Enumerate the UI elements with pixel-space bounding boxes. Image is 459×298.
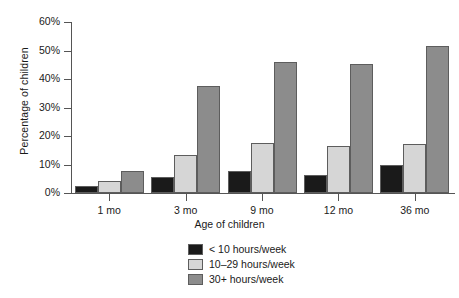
y-tick-mark — [64, 108, 71, 109]
x-tick-label: 12 mo — [303, 204, 373, 216]
bar — [304, 175, 327, 193]
y-tick-mark — [64, 51, 71, 52]
x-tick-label: 1 mo — [74, 204, 144, 216]
y-tick-mark — [64, 22, 71, 23]
legend-label: 30+ hours/week — [209, 273, 283, 285]
bar — [426, 46, 449, 193]
x-tick-mark — [338, 194, 339, 201]
bar — [380, 165, 403, 194]
x-tick-mark — [262, 194, 263, 201]
bar — [403, 144, 426, 193]
y-tick-label: 0% — [14, 186, 60, 198]
legend-item: 30+ hours/week — [188, 272, 295, 286]
bar — [197, 86, 220, 193]
x-tick-label: 9 mo — [227, 204, 297, 216]
legend-item: < 10 hours/week — [188, 242, 295, 256]
legend-item: 10–29 hours/week — [188, 257, 295, 271]
x-tick-mark — [186, 194, 187, 201]
bar — [98, 181, 121, 193]
bar — [121, 171, 144, 193]
y-tick-mark — [64, 79, 71, 80]
bar — [350, 64, 373, 193]
bar — [327, 146, 350, 193]
bar — [151, 177, 174, 193]
bar — [228, 171, 251, 193]
y-tick-label: 20% — [14, 129, 60, 141]
bar — [274, 62, 297, 193]
legend-swatch — [188, 274, 203, 285]
y-tick-mark — [64, 136, 71, 137]
bar — [251, 143, 274, 193]
bar — [75, 186, 98, 193]
bar — [174, 155, 197, 193]
legend-label: 10–29 hours/week — [209, 258, 295, 270]
y-tick-label: 60% — [14, 15, 60, 27]
y-tick-label: 50% — [14, 44, 60, 56]
y-tick-mark — [64, 193, 71, 194]
legend-swatch — [188, 244, 203, 255]
y-tick-label: 40% — [14, 72, 60, 84]
x-tick-label: 36 mo — [380, 204, 450, 216]
x-tick-mark — [415, 194, 416, 201]
x-axis-title: Age of children — [0, 218, 459, 230]
y-tick-label: 30% — [14, 101, 60, 113]
x-tick-mark — [109, 194, 110, 201]
y-tick-mark — [64, 165, 71, 166]
chart-legend: < 10 hours/week10–29 hours/week30+ hours… — [188, 242, 295, 287]
legend-label: < 10 hours/week — [209, 243, 286, 255]
bar-chart: Percentage of children 0%10%20%30%40%50%… — [0, 0, 459, 298]
x-axis-line — [71, 193, 455, 194]
legend-swatch — [188, 259, 203, 270]
x-tick-label: 3 mo — [151, 204, 221, 216]
y-tick-label: 10% — [14, 158, 60, 170]
plot-area — [71, 22, 453, 193]
